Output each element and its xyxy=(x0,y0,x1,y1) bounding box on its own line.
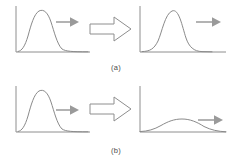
plot-a-output xyxy=(134,4,228,60)
arrow-outline-path xyxy=(90,97,131,121)
flow-arrow-output-a xyxy=(196,16,222,28)
figure-root: (a) xyxy=(0,0,232,163)
input-distribution-b xyxy=(10,84,92,140)
arrow-glyph xyxy=(56,17,79,27)
arrow-glyph xyxy=(56,105,79,115)
figure-row-b: (b) xyxy=(0,80,232,163)
plot-b-output xyxy=(134,84,228,140)
input-distribution-a xyxy=(10,4,92,60)
transform-arrow-a xyxy=(88,14,134,44)
arrow-glyph xyxy=(196,17,221,27)
transform-arrow-b xyxy=(88,94,134,124)
figure-row-a: (a) xyxy=(0,0,232,80)
flow-arrow-input-a xyxy=(56,16,80,28)
output-distribution-a xyxy=(134,4,228,60)
arrow-glyph xyxy=(198,115,223,125)
arrow-outline-path xyxy=(90,17,131,41)
output-distribution-b xyxy=(134,84,228,140)
flow-arrow-input-b xyxy=(56,104,80,116)
caption-b: (b) xyxy=(0,146,232,155)
outline-arrow-glyph xyxy=(88,94,134,124)
outline-arrow-glyph xyxy=(88,14,134,44)
caption-a: (a) xyxy=(0,63,232,72)
plot-a-input xyxy=(10,4,92,60)
flow-arrow-output-b xyxy=(198,114,224,126)
